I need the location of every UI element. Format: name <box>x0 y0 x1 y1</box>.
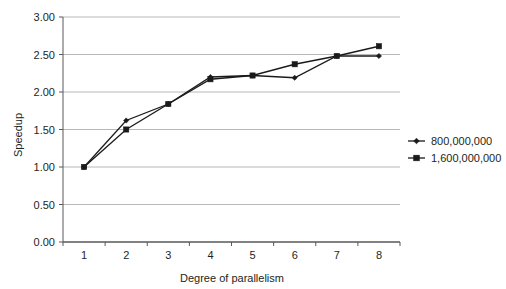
x-tick-label: 3 <box>165 249 171 261</box>
legend-item-label: 800,000,000 <box>431 135 492 147</box>
square-marker-icon <box>124 127 129 132</box>
y-tick-label: 1.00 <box>34 161 55 173</box>
square-marker-icon <box>292 62 297 67</box>
legend-item-label: 1,600,000,000 <box>431 152 501 164</box>
y-tick-label: 2.50 <box>34 49 55 61</box>
chart-container: 0.000.501.001.502.002.503.00 12345678 Sp… <box>0 0 506 289</box>
square-marker-icon <box>250 73 255 78</box>
y-tick-label: 0.50 <box>34 199 55 211</box>
speedup-line-chart: 0.000.501.001.502.002.503.00 12345678 Sp… <box>0 0 506 289</box>
x-tick-label: 1 <box>81 249 87 261</box>
y-tick-label: 3.00 <box>34 11 55 23</box>
x-tick-label: 4 <box>207 249 213 261</box>
square-marker-icon <box>166 101 171 106</box>
x-tick-label: 7 <box>334 249 340 261</box>
x-tick-label: 8 <box>376 249 382 261</box>
y-tick-label: 0.00 <box>34 236 55 248</box>
x-tick-label: 6 <box>292 249 298 261</box>
y-axis-title: Speedup <box>12 113 24 157</box>
x-tick-label: 2 <box>123 249 129 261</box>
square-marker-icon <box>208 77 213 82</box>
square-marker-icon <box>81 164 86 169</box>
y-tick-label: 2.00 <box>34 86 55 98</box>
square-marker-icon <box>334 53 339 58</box>
y-tick-label: 1.50 <box>34 124 55 136</box>
x-axis-title: Degree of parallelism <box>180 272 284 284</box>
square-marker-icon <box>376 44 381 49</box>
x-tick-label: 5 <box>250 249 256 261</box>
square-marker-icon <box>414 155 420 161</box>
